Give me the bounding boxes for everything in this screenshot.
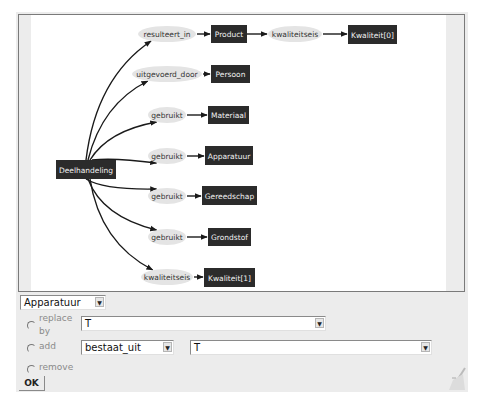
add-label: add (39, 341, 56, 352)
node-kwaliteit0[interactable]: Kwaliteit[0] (348, 25, 397, 44)
relation-kwaliteitseis-product[interactable]: kwaliteitseis (268, 26, 322, 42)
node-label: Gereedschap (205, 192, 255, 201)
relation-gebruikt[interactable]: gebruikt (148, 107, 186, 123)
node-gereedschap[interactable]: Gereedschap (202, 186, 257, 205)
edge-arrow (88, 179, 157, 230)
node-label: Materiaal (211, 111, 246, 120)
node-label: Grondstof (211, 233, 248, 242)
node-apparatuur[interactable]: Apparatuur (205, 146, 253, 165)
relation-gebruikt[interactable]: gebruikt (148, 229, 186, 245)
replace-by-label: by (39, 326, 50, 337)
node-label: Deelhandeling (59, 166, 113, 175)
replace-radio[interactable] (27, 321, 36, 330)
dropdown-arrow-icon[interactable]: ▼ (315, 318, 324, 328)
relation-label: gebruikt (151, 152, 182, 161)
resize-grip-icon[interactable] (447, 366, 467, 390)
edge-arrow (90, 179, 153, 270)
relation-uitgevoerd-door[interactable]: uitgevoerd_door (132, 66, 202, 82)
node-persoon[interactable]: Persoon (211, 65, 250, 83)
relation-label: gebruikt (151, 111, 182, 120)
node-label: Product (215, 30, 244, 39)
relation-gebruikt[interactable]: gebruikt (148, 148, 186, 164)
replace-target-value: T (85, 317, 91, 330)
replace-label: replace (39, 313, 72, 324)
replace-target-select[interactable]: T ▼ (81, 316, 326, 331)
node-label: Kwaliteit[1] (208, 274, 251, 283)
relation-label: uitgevoerd_door (136, 70, 198, 79)
node-label: Kwaliteit[0] (351, 31, 394, 40)
node-deelhandeling[interactable]: Deelhandeling (56, 160, 116, 179)
graph-canvas[interactable]: resulteert_inProductuitgevoerd_doorPerso… (18, 14, 465, 292)
dropdown-arrow-icon[interactable]: ▼ (95, 297, 104, 307)
node-select[interactable]: Apparatuur ▼ (20, 295, 106, 310)
relation-kwaliteitseis[interactable]: kwaliteitseis (141, 269, 193, 285)
add-radio[interactable] (27, 344, 36, 353)
node-label: Persoon (216, 70, 246, 79)
add-relation-select[interactable]: bestaat_uit ▼ (81, 340, 174, 355)
edge-arrow (86, 179, 157, 189)
relation-label: kwaliteitseis (272, 30, 318, 39)
relation-resulteert-in[interactable]: resulteert_in (138, 26, 196, 42)
remove-label: remove (39, 362, 73, 373)
node-product[interactable]: Product (211, 25, 247, 43)
relation-label: gebruikt (151, 192, 182, 201)
node-grondstof[interactable]: Grondstof (208, 228, 251, 246)
edge-arrow (88, 81, 148, 160)
add-target-select[interactable]: T ▼ (190, 340, 432, 355)
add-relation-value: bestaat_uit (85, 341, 141, 354)
node-select-value: Apparatuur (24, 296, 81, 309)
relation-label: kwaliteitseis (144, 273, 190, 282)
dropdown-arrow-icon[interactable]: ▼ (421, 342, 430, 352)
relation-gebruikt[interactable]: gebruikt (148, 188, 186, 204)
ok-button[interactable]: OK (19, 376, 45, 391)
relation-label: resulteert_in (143, 30, 190, 39)
dropdown-arrow-icon[interactable]: ▼ (163, 342, 172, 352)
node-kwaliteit1[interactable]: Kwaliteit[1] (204, 268, 255, 287)
edge-arrow (86, 41, 151, 160)
relation-graph[interactable]: resulteert_inProductuitgevoerd_doorPerso… (19, 15, 464, 291)
relation-label: gebruikt (151, 233, 182, 242)
node-materiaal[interactable]: Materiaal (208, 106, 249, 124)
add-target-value: T (194, 341, 200, 354)
node-label: Apparatuur (208, 152, 251, 161)
remove-radio[interactable] (27, 365, 36, 374)
